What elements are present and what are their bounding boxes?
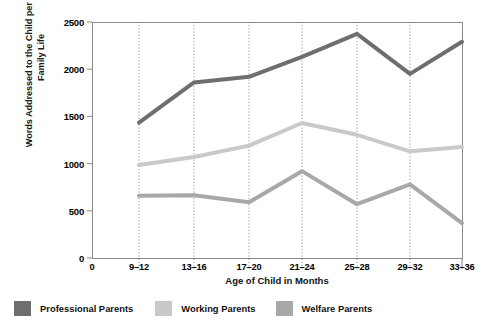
legend-swatch-icon — [155, 301, 172, 316]
legend-label: Working Parents — [181, 303, 255, 314]
legend-swatch-icon — [276, 301, 293, 316]
y-axis-tick-2500: 2500 — [26, 17, 84, 28]
y-axis-tick-labels: 05001000150020002500 — [26, 0, 84, 332]
series-line-working-parents — [139, 123, 462, 165]
legend-item-welfare-parents[interactable]: Welfare Parents — [276, 301, 373, 316]
plot-frame — [93, 23, 463, 259]
x-axis-tick-33-36: 33–36 — [450, 262, 475, 272]
x-axis-title-text: Age of Child in Months — [225, 275, 328, 286]
y-axis-tick-0: 0 — [26, 253, 84, 264]
x-axis-tick-13-16: 13–16 — [182, 262, 207, 272]
series-line-welfare-parents — [139, 171, 462, 223]
x-axis-tick-21-24: 21–24 — [290, 262, 315, 272]
chart-legend: Professional ParentsWorking ParentsWelfa… — [14, 298, 474, 318]
x-axis-tick-25-28: 25–28 — [345, 262, 370, 272]
legend-label: Welfare Parents — [302, 303, 373, 314]
x-axis-tick-0: 0 — [90, 262, 95, 272]
legend-item-professional-parents[interactable]: Professional Parents — [14, 301, 133, 316]
x-axis-title: Age of Child in Months — [92, 275, 462, 286]
y-axis-tick-1000: 1000 — [26, 158, 84, 169]
x-axis-tick-9-12: 9–12 — [129, 262, 149, 272]
y-axis-tick-500: 500 — [26, 205, 84, 216]
line-chart: Words Addressed to the Child per Hour of… — [0, 0, 481, 332]
y-axis-tick-2000: 2000 — [26, 64, 84, 75]
x-axis-tick-29-32: 29–32 — [398, 262, 423, 272]
legend-label: Professional Parents — [40, 303, 133, 314]
legend-item-working-parents[interactable]: Working Parents — [155, 301, 255, 316]
y-axis-tick-1500: 1500 — [26, 111, 84, 122]
series-line-professional-parents — [139, 34, 462, 123]
x-axis-tick-17-20: 17–20 — [237, 262, 262, 272]
legend-swatch-icon — [14, 301, 31, 316]
